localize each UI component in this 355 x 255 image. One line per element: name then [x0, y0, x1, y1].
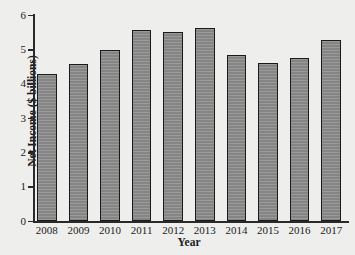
x-axis-tick-label: 2010	[94, 224, 126, 236]
y-axis-tick-label: 3	[4, 112, 26, 124]
y-axis-tick	[28, 186, 33, 187]
bar-2010	[100, 50, 120, 221]
y-axis-tick	[28, 152, 33, 153]
y-axis-tick-label: 5	[4, 43, 26, 55]
bar-2015	[258, 63, 278, 221]
y-axis-tick	[28, 221, 33, 222]
x-axis-tick-label: 2017	[315, 224, 347, 236]
bar-2012	[163, 32, 183, 222]
bar-2011	[132, 30, 152, 221]
y-axis-tick-label: 0	[4, 215, 26, 227]
y-axis-tick	[28, 49, 33, 50]
x-axis-tick-label: 2015	[252, 224, 284, 236]
y-axis-tick-label: 4	[4, 77, 26, 89]
x-axis-tick-label: 2016	[284, 224, 316, 236]
y-axis-tick-label: 1	[4, 180, 26, 192]
y-axis-tick	[28, 83, 33, 84]
x-axis-tick-label: 2008	[31, 224, 63, 236]
bar-2008	[37, 74, 57, 222]
x-axis-tick-label: 2014	[220, 224, 252, 236]
x-axis-tick-label: 2012	[157, 224, 189, 236]
bar-2017	[321, 40, 341, 221]
y-axis-tick-label: 6	[4, 9, 26, 21]
bar-2016	[290, 58, 310, 221]
x-axis-tick-label: 2013	[189, 224, 221, 236]
y-axis-tick-label: 2	[4, 146, 26, 158]
x-axis-tick-label: 2011	[126, 224, 158, 236]
y-axis-tick-labels: 0123456	[0, 0, 26, 255]
x-axis-tick-label: 2009	[62, 224, 94, 236]
bar-2009	[69, 64, 89, 221]
x-axis-title: Year	[33, 236, 345, 248]
y-axis-tick	[28, 15, 33, 16]
bar-2013	[195, 28, 215, 221]
bar-2014	[227, 55, 247, 221]
y-axis-tick	[28, 118, 33, 119]
chart-figure: Net Income ($ billions) 0123456 Year 200…	[0, 0, 355, 255]
